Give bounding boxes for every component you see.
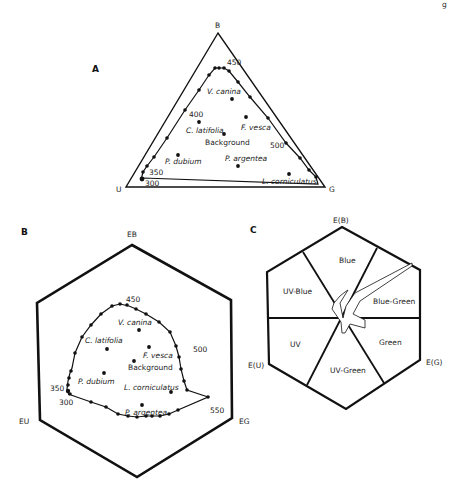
panel-a: A B U G 450 400 500 350 300 V. canina C.… bbox=[92, 21, 335, 194]
vertex-eb-label: EB bbox=[127, 230, 137, 239]
panel-c: C E(B) E(U) E(G) Blue UV-Blue Blue-Green… bbox=[248, 216, 442, 409]
vertex-eb-label: E(B) bbox=[333, 216, 349, 225]
sector-label-uv: UV bbox=[290, 340, 301, 349]
wavelength-label: 400 bbox=[189, 110, 204, 119]
species-label: Background bbox=[205, 138, 250, 147]
wavelength-label: 550 bbox=[210, 406, 225, 415]
species-label: P. dubium bbox=[78, 377, 115, 386]
panel-c-label: C bbox=[250, 225, 257, 235]
species-label: P. dubium bbox=[165, 157, 202, 166]
species-label: P. argentea bbox=[125, 408, 168, 417]
wavelength-label: 500 bbox=[270, 141, 285, 150]
panel-a-label: A bbox=[92, 64, 99, 74]
wavelength-label: 450 bbox=[227, 58, 242, 67]
species-label: Background bbox=[128, 363, 173, 372]
species-label: C. latifolia bbox=[186, 126, 224, 135]
vertex-u-label: U bbox=[116, 185, 122, 194]
species-label: V. canina bbox=[207, 87, 241, 96]
sector-label-blue-green: Blue-Green bbox=[373, 297, 416, 306]
species-label: L. corniculatus bbox=[124, 383, 179, 392]
sector-label-uv-blue: UV-Blue bbox=[283, 287, 313, 296]
vertex-eg-label: E(G) bbox=[426, 358, 442, 367]
species-label: V. canina bbox=[118, 318, 152, 327]
wavelength-label: 350 bbox=[149, 168, 164, 177]
color-triangle bbox=[126, 33, 325, 187]
figure-canvas: g A B U G 450 400 500 350 300 V. canina … bbox=[0, 0, 460, 491]
vertex-b-label: B bbox=[215, 21, 220, 30]
species-label: L. corniculatus bbox=[262, 177, 317, 186]
sector-label-blue: Blue bbox=[339, 256, 356, 265]
wavelength-label: 300 bbox=[59, 398, 74, 407]
wavelength-label: 350 bbox=[50, 384, 65, 393]
wavelength-label: 500 bbox=[193, 345, 208, 354]
vertex-g-label: G bbox=[329, 185, 335, 194]
wavelength-label: 450 bbox=[126, 295, 141, 304]
cropped-caption-fragment: g bbox=[442, 0, 447, 9]
species-label: F. vesca bbox=[143, 351, 173, 360]
vertex-eg-label: EG bbox=[239, 417, 250, 426]
species-label: C. latifolia bbox=[85, 336, 123, 345]
vertex-eu-label: EU bbox=[19, 417, 29, 426]
species-label: P. argentea bbox=[225, 154, 268, 163]
species-label: F. vesca bbox=[241, 123, 271, 132]
panel-b: B EB EU EG 450 500 350 300 550 V. bbox=[19, 227, 250, 477]
vertex-eu-label: E(U) bbox=[248, 361, 264, 370]
wavelength-label: 300 bbox=[145, 179, 160, 188]
sector-label-green: Green bbox=[379, 338, 402, 347]
panel-b-label: B bbox=[21, 227, 28, 237]
spectral-locus bbox=[141, 68, 318, 184]
sector-label-uv-green: UV-Green bbox=[330, 366, 366, 375]
